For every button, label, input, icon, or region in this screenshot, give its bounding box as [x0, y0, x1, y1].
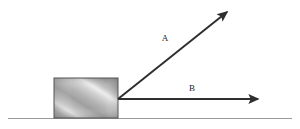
block-horizontal-shading: [54, 78, 118, 118]
force-vector-b-label: B: [189, 83, 195, 93]
figure-background: [0, 0, 300, 129]
force-diagram-figure: A B: [0, 0, 300, 129]
force-vector-a-label: A: [162, 33, 169, 43]
block-group: [54, 78, 118, 118]
diagram-canvas: A B: [0, 0, 300, 129]
